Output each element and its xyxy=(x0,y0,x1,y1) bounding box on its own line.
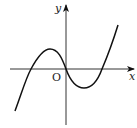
y-axis-label: y xyxy=(54,2,62,15)
function-graph: y x O xyxy=(0,0,137,128)
origin-label: O xyxy=(52,71,61,84)
x-axis-label: x xyxy=(129,70,136,83)
